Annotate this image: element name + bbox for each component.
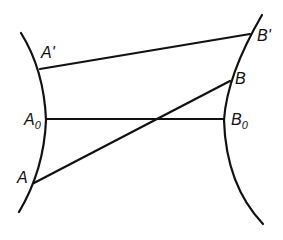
label-b-main: B — [235, 70, 246, 87]
label-b-prime: B' — [257, 28, 271, 44]
label-b-prime-suffix: ' — [268, 27, 271, 44]
label-a-prime: A' — [41, 45, 55, 61]
label-a-main: A — [17, 169, 28, 186]
label-a0: A0 — [24, 112, 41, 128]
label-a-prime-main: A — [41, 44, 52, 61]
segment-a-prime-b-prime — [40, 34, 250, 69]
label-a: A — [17, 170, 28, 186]
label-b: B — [235, 71, 246, 87]
label-a-prime-suffix: ' — [52, 44, 55, 61]
label-a0-main: A — [24, 111, 35, 128]
label-b0: B0 — [231, 112, 248, 128]
label-b0-sub: 0 — [242, 119, 248, 131]
label-a0-sub: 0 — [35, 119, 41, 131]
label-b-prime-main: B — [257, 27, 268, 44]
segment-a-b — [34, 81, 230, 183]
label-b0-main: B — [231, 111, 242, 128]
